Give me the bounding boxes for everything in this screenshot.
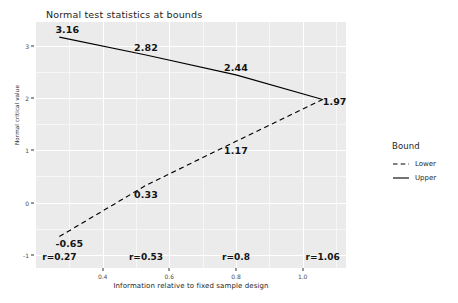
y-axis: -10123 (0, 22, 34, 268)
y-tick-mark-0 (31, 254, 34, 255)
point-label-upper-0: 3.16 (55, 24, 79, 35)
x-tick-label-3: 1.0 (298, 273, 308, 280)
data-series-layer (36, 22, 346, 268)
y-tick-mark-4 (31, 45, 34, 46)
legend-key-dashed-icon (392, 158, 410, 170)
x-tick-label-1: 0.6 (165, 273, 175, 280)
x-tick-mark-3 (302, 268, 303, 271)
legend-key-solid-icon (392, 172, 410, 184)
point-label-upper-2: 2.44 (224, 61, 248, 72)
chart-title: Normal test statistics at bounds (46, 9, 202, 20)
legend-items: LowerUpper (392, 157, 436, 185)
y-tick-mark-2 (31, 150, 34, 151)
r-label-2: r=0.8 (222, 252, 250, 262)
r-label-0: r=0.27 (42, 252, 76, 262)
x-axis-title: Information relative to fixed sample des… (36, 282, 346, 290)
y-tick-label-4: 3 (25, 42, 29, 49)
x-axis: 0.40.60.81.0 (36, 268, 346, 282)
point-label-upper-3: 1.97 (323, 96, 347, 107)
point-label-lower-1: 0.33 (134, 189, 158, 200)
legend-label-lower: Lower (415, 160, 436, 168)
point-label-lower-2: 1.17 (224, 145, 248, 156)
x-tick-mark-2 (236, 268, 237, 271)
x-tick-mark-0 (102, 268, 103, 271)
y-tick-label-1: 0 (25, 199, 29, 206)
r-label-3: r=1.06 (306, 252, 340, 262)
point-label-upper-1: 2.82 (134, 41, 158, 52)
chart-container: Normal test statistics at bounds Normal … (0, 0, 458, 303)
y-tick-label-0: -1 (23, 251, 29, 258)
x-tick-label-0: 0.4 (98, 273, 108, 280)
y-tick-label-3: 2 (25, 94, 29, 101)
legend-title: Bound (392, 141, 436, 151)
point-label-lower-0: -0.65 (55, 237, 83, 248)
x-tick-label-2: 0.8 (231, 273, 241, 280)
y-tick-mark-3 (31, 97, 34, 98)
y-tick-label-2: 1 (25, 147, 29, 154)
legend-label-upper: Upper (415, 174, 436, 182)
y-tick-mark-1 (31, 202, 34, 203)
legend: Bound LowerUpper (392, 141, 436, 185)
series-line-upper (59, 37, 322, 99)
legend-item-upper[interactable]: Upper (392, 171, 436, 185)
legend-item-lower[interactable]: Lower (392, 157, 436, 171)
x-tick-mark-1 (169, 268, 170, 271)
plot-panel (36, 22, 346, 268)
r-label-1: r=0.53 (129, 252, 163, 262)
series-line-lower (59, 99, 322, 236)
